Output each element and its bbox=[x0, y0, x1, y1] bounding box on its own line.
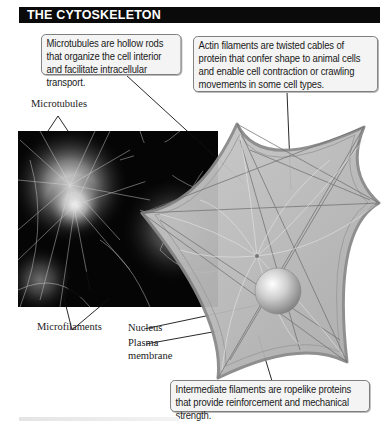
callout-intermediate-filaments: Intermediate filaments are ropelike prot… bbox=[170, 380, 370, 412]
callout-actin-filaments: Actin filaments are twisted cables of pr… bbox=[193, 36, 378, 92]
label-plasma-line2: membrane bbox=[128, 350, 172, 363]
label-plasma-line1: Plasma bbox=[128, 337, 172, 350]
label-microfilaments: Microfilaments bbox=[37, 321, 102, 334]
nucleus-sphere bbox=[255, 268, 301, 314]
label-plasma-membrane: Plasma membrane bbox=[128, 337, 172, 362]
centrosome bbox=[255, 254, 259, 258]
label-microtubules: Microtubules bbox=[31, 98, 87, 111]
label-nucleus: Nucleus bbox=[128, 322, 162, 335]
callout-microtubules: Microtubules are hollow rods that organi… bbox=[41, 34, 181, 75]
callout-actin-text: Actin filaments are twisted cables of pr… bbox=[199, 40, 361, 90]
cutoff-caption bbox=[19, 417, 179, 421]
